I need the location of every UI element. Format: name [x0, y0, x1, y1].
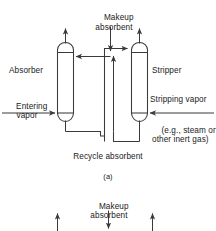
absorber-column-shape: [58, 43, 74, 122]
stripper-bottoms-piping: [114, 132, 140, 142]
rich-absorbent-to-stripper-line: [105, 49, 128, 142]
absorber-label: Absorber: [9, 66, 43, 76]
process-flow-diagram: Makeup absorbent Absorber Stripper Enter…: [0, 0, 216, 231]
absorber-bottoms-piping: [66, 132, 105, 137]
makeup-absorbent-label: Makeup absorbent: [78, 4, 150, 42]
stripper-label: Stripper: [152, 66, 181, 76]
recycle-absorbent-label: Recycle absorbent: [58, 152, 158, 162]
figure-caption-a: (a): [88, 172, 128, 182]
stripping-vapor-label: Stripping vapor: [150, 95, 207, 105]
figure-b-makeup-absorbent-label: Makeup absorbent: [73, 192, 145, 230]
stripper-column-shape: [132, 43, 148, 122]
stripping-vapor-note: (e.g., steam or other inert gas): [152, 116, 216, 154]
entering-vapor-label: Entering vapor: [1, 92, 53, 130]
